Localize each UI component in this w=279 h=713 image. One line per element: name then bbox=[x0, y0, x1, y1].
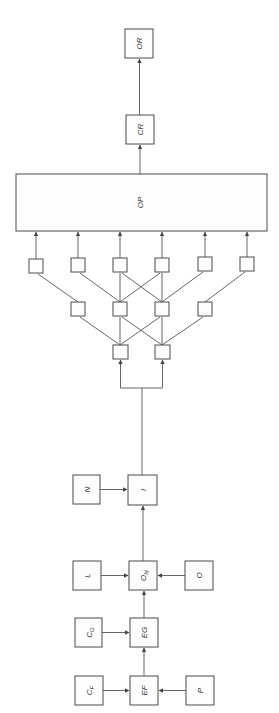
bottom-to-middle-edges bbox=[80, 317, 203, 345]
node-op: OP bbox=[16, 174, 267, 231]
middle-node-2 bbox=[113, 302, 127, 316]
top-row-nodes bbox=[29, 257, 254, 273]
top-node-4 bbox=[155, 258, 169, 272]
node-or-label: OR bbox=[135, 37, 144, 49]
node-cf: CF bbox=[75, 676, 103, 705]
middle-node-4 bbox=[198, 302, 212, 316]
top-node-1 bbox=[29, 259, 43, 273]
node-o-label: O bbox=[195, 572, 204, 578]
top-node-2 bbox=[71, 258, 85, 272]
middle-node-3 bbox=[155, 302, 169, 316]
top-row-arrows bbox=[36, 232, 247, 259]
middle-row-nodes bbox=[71, 302, 212, 316]
node-i: I bbox=[128, 475, 157, 505]
node-p: P bbox=[186, 676, 214, 705]
node-n: N bbox=[73, 475, 100, 504]
node-cf-subscript: F bbox=[89, 685, 95, 689]
node-cg-subscript: G bbox=[89, 627, 95, 632]
node-or: OR bbox=[125, 29, 153, 58]
node-l-label: L bbox=[83, 573, 92, 577]
fork-edges bbox=[121, 360, 163, 475]
top-node-3 bbox=[113, 258, 127, 272]
node-obj-subscript: bj bbox=[143, 569, 149, 574]
top-node-6 bbox=[240, 257, 254, 271]
node-cr-label: CR bbox=[136, 124, 145, 136]
bottom-row-nodes bbox=[113, 345, 170, 359]
node-ef: EF bbox=[130, 676, 158, 705]
node-o: O bbox=[185, 561, 213, 590]
middle-node-1 bbox=[71, 302, 85, 316]
node-l: L bbox=[73, 561, 101, 590]
node-cr: CR bbox=[126, 115, 154, 144]
flow-diagram: OR CR OP bbox=[0, 0, 279, 713]
node-cg: CG bbox=[75, 618, 102, 647]
node-obj: Obj bbox=[129, 561, 157, 590]
top-node-5 bbox=[198, 257, 212, 271]
node-eg-label: EG bbox=[140, 627, 149, 639]
node-ef-label: EF bbox=[140, 684, 149, 695]
middle-to-top-edges bbox=[38, 272, 245, 302]
node-eg: EG bbox=[130, 618, 158, 647]
node-p-label: P bbox=[196, 687, 205, 693]
bottom-node-1 bbox=[113, 345, 128, 359]
node-op-label: OP bbox=[136, 196, 145, 208]
bottom-node-2 bbox=[155, 345, 170, 359]
node-n-label: N bbox=[83, 486, 92, 492]
